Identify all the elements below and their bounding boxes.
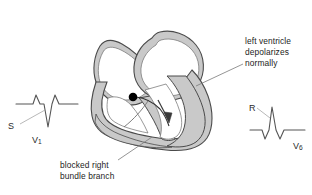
lead-v1-subscript: 1 bbox=[38, 138, 42, 145]
diagram-canvas: left ventricle depolarizes normally bloc… bbox=[0, 0, 312, 195]
ecg-v6-waveform bbox=[250, 107, 305, 139]
bb-annotation-line-2: bundle branch bbox=[60, 171, 114, 182]
s-wave-label: S bbox=[8, 121, 14, 131]
lv-annotation-line-1: left ventricle bbox=[245, 36, 291, 47]
left-ventricle-annotation: left ventricle depolarizes normally bbox=[245, 36, 291, 70]
blocked-branch-annotation: blocked right bundle branch bbox=[60, 160, 114, 182]
lv-annotation-line-2: depolarizes bbox=[245, 47, 291, 58]
lead-v6-label: V6 bbox=[293, 141, 303, 151]
lead-v1-label: V1 bbox=[32, 135, 42, 145]
r-wave-label: R bbox=[249, 103, 256, 113]
lv-annotation-line-3: normally bbox=[245, 58, 291, 69]
ecg-trace-v6 bbox=[0, 0, 312, 195]
leader-r-wave bbox=[257, 108, 270, 118]
lead-v6-subscript: 6 bbox=[299, 144, 303, 151]
bb-annotation-line-1: blocked right bbox=[60, 160, 114, 171]
